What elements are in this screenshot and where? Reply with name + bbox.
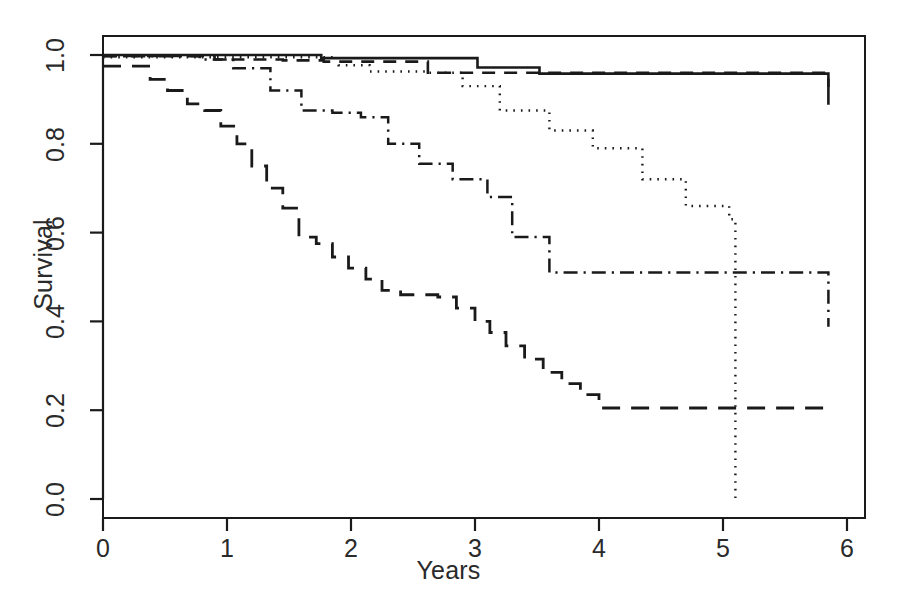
y-tick-label: 0.0 [41,465,70,535]
x-tick-label: 3 [455,534,495,563]
x-tick-label: 5 [703,534,743,563]
x-tick-label: 0 [83,534,123,563]
survival-curves-group [103,55,828,499]
y-tick-label: 0.4 [41,287,70,357]
x-tick-label: 4 [579,534,619,563]
y-tick-label: 0.8 [41,109,70,179]
x-axis-title: Years [0,556,897,585]
x-tick-label: 6 [827,534,867,563]
y-axis-ticks [90,55,103,499]
survival-curve-group-5-longdash [103,66,828,408]
kaplan-meier-chart [0,0,897,615]
y-tick-label: 0.2 [41,376,70,446]
survival-curve-group-1-solid [103,55,828,105]
x-tick-label: 2 [331,534,371,563]
plot-frame [103,36,865,518]
x-tick-label: 1 [207,534,247,563]
y-tick-label: 1.0 [41,21,70,91]
y-tick-label: 0.6 [41,198,70,268]
survival-curve-group-3-dotted [103,57,735,499]
survival-plot-figure: Survival Years 0.00.20.40.60.81.0 012345… [0,0,897,615]
x-axis-ticks [103,518,847,531]
survival-curve-group-4-dashdot [103,56,828,326]
survival-curve-group-2-dashed [103,56,828,87]
